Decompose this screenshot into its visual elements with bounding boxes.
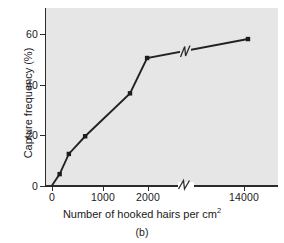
x-ticklabel-2000: 2000 <box>136 191 160 203</box>
x-axis-label-text: Number of hooked hairs per cm <box>63 208 217 220</box>
y-axis-label: Capture frequency (%) <box>22 13 34 193</box>
plot-area <box>46 8 278 186</box>
y-axis-line <box>45 8 46 186</box>
x-ticklabel-0: 0 <box>49 191 55 203</box>
y-tick-0 <box>40 186 45 187</box>
x-ticklabel-14000: 14000 <box>229 191 259 203</box>
y-tick-60 <box>40 34 45 35</box>
panel-caption: (b) <box>0 226 284 238</box>
figure-panel-b: 60 40 20 0 0 1000 2000 14000 Capture fre… <box>0 0 284 243</box>
y-tick-20 <box>40 135 45 136</box>
x-axis-label-superscript: 2 <box>217 206 221 215</box>
x-ticklabel-1000: 1000 <box>91 191 115 203</box>
y-tick-40 <box>40 85 45 86</box>
x-axis-label: Number of hooked hairs per cm2 <box>0 206 284 220</box>
